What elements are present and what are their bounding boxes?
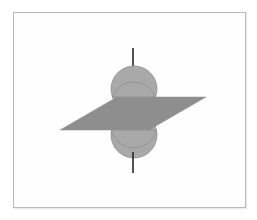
cutting-plane: [60, 97, 206, 130]
geometry-illustration: [0, 0, 257, 220]
figure-canvas: Sphere intersected by a plane: [0, 0, 257, 220]
